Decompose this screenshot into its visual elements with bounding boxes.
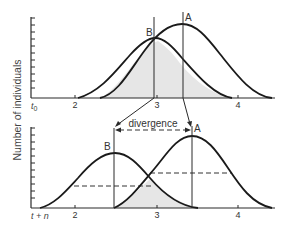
bottom-curve-b — [40, 153, 198, 208]
top-label-a: A — [185, 12, 192, 23]
bottom-label-b: B — [104, 141, 111, 152]
top-tick-2: 2 — [72, 100, 77, 110]
bottom-panel: 2 3 4 t + n B A — [31, 123, 275, 221]
divergence-diagram: Number of individuals 2 3 4 t0 — [0, 0, 286, 232]
bottom-time-label: t + n — [31, 211, 49, 221]
bottom-tick-4: 4 — [235, 210, 240, 220]
divergence-annotation: divergence — [115, 118, 191, 133]
bottom-label-a: A — [194, 123, 201, 134]
divergence-label: divergence — [129, 118, 178, 129]
top-tick-4: 4 — [235, 100, 240, 110]
top-panel: 2 3 4 t0 B A — [31, 12, 275, 112]
top-time-label: t0 — [31, 101, 38, 112]
y-axis-label: Number of individuals — [11, 60, 23, 161]
bottom-tick-2: 2 — [72, 210, 77, 220]
bottom-tick-3: 3 — [154, 210, 159, 220]
top-label-b: B — [146, 27, 153, 38]
top-tick-3: 3 — [154, 100, 159, 110]
